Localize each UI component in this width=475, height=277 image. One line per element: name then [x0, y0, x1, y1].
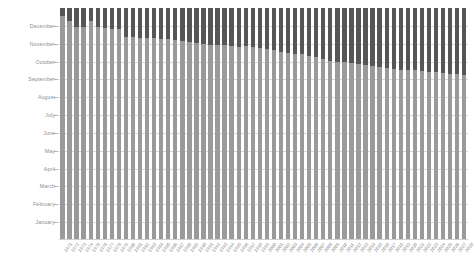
bar-1993[interactable] [215, 8, 219, 240]
bar-lower-segment [335, 62, 339, 240]
bar-upper-segment [194, 8, 198, 43]
bar-lower-segment [194, 43, 198, 240]
bar-lower-segment [96, 27, 100, 240]
bar-2026[interactable] [448, 8, 452, 240]
bar-lower-segment [427, 72, 431, 240]
bar-2017[interactable] [385, 8, 389, 240]
bar-2016[interactable] [377, 8, 381, 240]
bar-1987[interactable] [173, 8, 177, 240]
bar-slot [454, 8, 461, 240]
bar-2010[interactable] [335, 8, 339, 240]
bar-2015[interactable] [370, 8, 374, 240]
bar-series-group [59, 8, 468, 240]
bar-upper-segment [103, 8, 107, 28]
bar-1982[interactable] [138, 8, 142, 240]
bar-lower-segment [392, 69, 396, 240]
bar-1972[interactable] [67, 8, 71, 240]
bar-slot [376, 8, 383, 240]
bar-1990[interactable] [194, 8, 198, 240]
bar-lower-segment [229, 46, 233, 240]
bar-2004[interactable] [293, 8, 297, 240]
bar-slot [144, 8, 151, 240]
bar-2009[interactable] [328, 8, 332, 240]
bar-2020[interactable] [406, 8, 410, 240]
bar-slot [404, 8, 411, 240]
bar-1971[interactable] [60, 8, 64, 240]
bar-2011[interactable] [342, 8, 346, 240]
bar-1991[interactable] [201, 8, 205, 240]
bar-upper-segment [258, 8, 262, 48]
bar-upper-segment [314, 8, 318, 57]
bar-1976[interactable] [96, 8, 100, 240]
bar-2014[interactable] [363, 8, 367, 240]
bar-upper-segment [74, 8, 78, 27]
bar-lower-segment [81, 27, 85, 240]
bar-1975[interactable] [89, 8, 93, 240]
bar-1984[interactable] [152, 8, 156, 240]
bar-2003[interactable] [286, 8, 290, 240]
bar-2024[interactable] [434, 8, 438, 240]
bar-lower-segment [300, 54, 304, 240]
tick-august [54, 97, 58, 98]
bar-2002[interactable] [279, 8, 283, 240]
bar-1981[interactable] [131, 8, 135, 240]
bar-2013[interactable] [356, 8, 360, 240]
bar-slot [80, 8, 87, 240]
bar-1995[interactable] [229, 8, 233, 240]
bar-1983[interactable] [145, 8, 149, 240]
bar-2012[interactable] [349, 8, 353, 240]
bar-upper-segment [279, 8, 283, 52]
bar-upper-segment [392, 8, 396, 69]
bar-2006[interactable] [307, 8, 311, 240]
bar-upper-segment [335, 8, 339, 62]
bar-upper-segment [159, 8, 163, 39]
tick-april [54, 169, 58, 170]
bar-lower-segment [356, 64, 360, 240]
bar-2021[interactable] [413, 8, 417, 240]
bar-1988[interactable] [180, 8, 184, 240]
bar-2008[interactable] [321, 8, 325, 240]
bar-2028[interactable] [462, 8, 466, 240]
bar-upper-segment [265, 8, 269, 49]
bar-lower-segment [124, 37, 128, 240]
bar-1980[interactable] [124, 8, 128, 240]
bar-1989[interactable] [187, 8, 191, 240]
bar-slot [242, 8, 249, 240]
bar-1996[interactable] [237, 8, 241, 240]
bar-1992[interactable] [208, 8, 212, 240]
bar-1979[interactable] [117, 8, 121, 240]
bar-2023[interactable] [427, 8, 431, 240]
bar-1997[interactable] [244, 8, 248, 240]
bar-lower-segment [363, 65, 367, 240]
bar-1978[interactable] [110, 8, 114, 240]
bar-1974[interactable] [81, 8, 85, 240]
bar-2022[interactable] [420, 8, 424, 240]
bar-slot [348, 8, 355, 240]
bar-1999[interactable] [258, 8, 262, 240]
bar-slot [362, 8, 369, 240]
bar-1977[interactable] [103, 8, 107, 240]
bar-1994[interactable] [222, 8, 226, 240]
bar-2027[interactable] [455, 8, 459, 240]
bar-upper-segment [229, 8, 233, 46]
bar-1998[interactable] [251, 8, 255, 240]
bar-2000[interactable] [265, 8, 269, 240]
bar-slot [129, 8, 136, 240]
bar-upper-segment [180, 8, 184, 41]
bar-1973[interactable] [74, 8, 78, 240]
bar-2007[interactable] [314, 8, 318, 240]
bar-upper-segment [385, 8, 389, 68]
y-axis-labels: JanuaryFebruaryMarchAprilMayJuneJulyAugu… [0, 8, 55, 240]
bar-2005[interactable] [300, 8, 304, 240]
bar-slot [263, 8, 270, 240]
bar-lower-segment [138, 38, 142, 240]
bar-1986[interactable] [166, 8, 170, 240]
bar-2025[interactable] [441, 8, 445, 240]
bar-2019[interactable] [399, 8, 403, 240]
bar-slot [151, 8, 158, 240]
bar-1985[interactable] [159, 8, 163, 240]
bar-2001[interactable] [272, 8, 276, 240]
bar-2018[interactable] [392, 8, 396, 240]
bar-slot [108, 8, 115, 240]
bar-slot [447, 8, 454, 240]
